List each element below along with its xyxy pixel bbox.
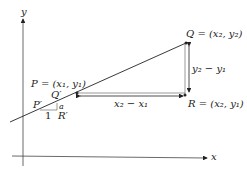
label-rise: y₂ − y₁ — [191, 63, 226, 74]
label-Q-prime: Q′ — [51, 89, 62, 100]
label-R-prime: R′ — [57, 110, 69, 121]
label-one: 1 — [45, 110, 51, 121]
slope-diagram: y x Q = (x₂, y₂) P = (x₁, y₁) R = (x₂, y… — [0, 0, 247, 174]
label-a: a — [59, 102, 64, 111]
x-axis — [12, 156, 207, 158]
y-axis-label: y — [20, 6, 27, 17]
label-Q: Q = (x₂, y₂) — [186, 28, 243, 39]
label-R: R = (x₂, y₁) — [187, 98, 244, 109]
label-P-prime: P′ — [32, 99, 43, 110]
label-run: x₂ − x₁ — [114, 98, 148, 109]
label-P: P = (x₁, y₁) — [30, 78, 86, 89]
x-axis-label: x — [211, 151, 217, 162]
